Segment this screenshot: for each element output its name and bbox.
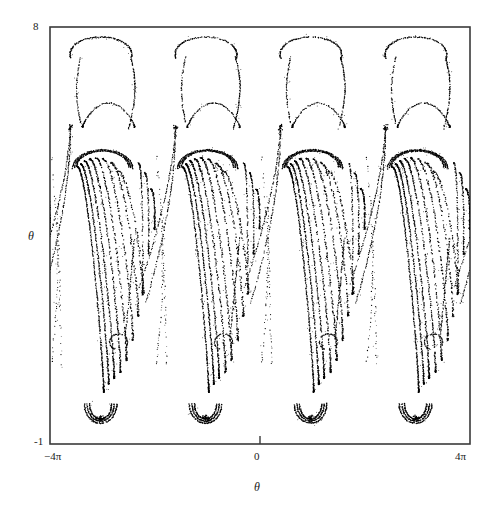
poincare-section-figure xyxy=(0,0,493,509)
x-axis-title: θ xyxy=(254,480,260,495)
y-axis-title: θ xyxy=(28,229,34,244)
figure-background xyxy=(0,0,493,509)
x-axis-left-label: −4π xyxy=(44,450,61,462)
y-axis-top-label: 8 xyxy=(33,20,39,32)
x-axis-right-label: 4π xyxy=(455,450,466,462)
x-axis-mid-label: 0 xyxy=(254,450,260,462)
y-axis-bottom-label: -1 xyxy=(34,435,43,447)
